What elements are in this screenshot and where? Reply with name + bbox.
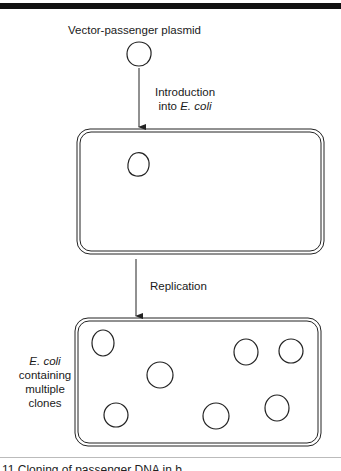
step2-label: Replication <box>150 279 207 293</box>
plasmid-clone-icon <box>92 330 114 356</box>
side-label-line2: containing <box>14 368 76 382</box>
figure-caption: 11 Cloning of passenger DNA in b <box>0 457 341 471</box>
plasmid-clone-icon <box>265 395 289 421</box>
step1-line2: into E. coli <box>150 99 220 113</box>
plasmid-icon <box>128 153 149 176</box>
vector-plasmid-icon <box>127 42 151 66</box>
figure-title: Vector-passenger plasmid <box>68 23 201 37</box>
plasmid-clone-icon <box>147 362 173 388</box>
side-label: E. coli containing multiple clones <box>14 354 76 410</box>
ecoli-cell-1 <box>77 129 324 254</box>
plasmid-clone-icon <box>203 403 229 429</box>
side-label-line4: clones <box>14 396 76 410</box>
plasmid-clone-icon <box>104 403 128 427</box>
organism-name: E. coli <box>180 100 211 112</box>
side-label-line3: multiple <box>14 382 76 396</box>
side-label-organism: E. coli <box>14 354 76 368</box>
step1-line1: Introduction <box>150 85 220 99</box>
caption-text: 11 Cloning of passenger DNA in b <box>2 463 182 471</box>
step1-label: Introduction into E. coli <box>150 85 220 113</box>
ecoli-cell-2 <box>75 318 321 446</box>
plasmid-clone-icon <box>279 339 303 363</box>
plasmid-clone-icon <box>234 339 258 365</box>
